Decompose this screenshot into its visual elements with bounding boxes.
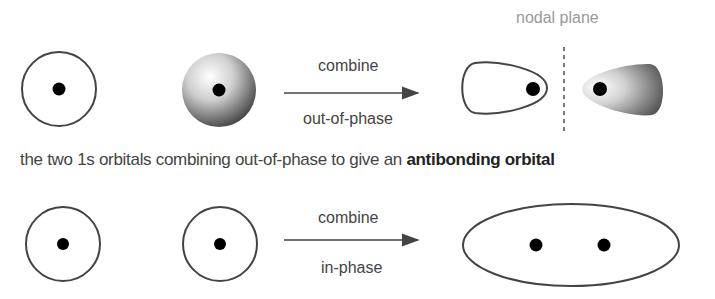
nucleus-icon bbox=[530, 239, 543, 252]
bottom-right-1s-orbital bbox=[183, 207, 257, 281]
top-arrow-sublabel: out-of-phase bbox=[303, 110, 393, 128]
bottom-arrow-label: combine bbox=[318, 209, 378, 227]
bottom-arrow-sublabel: in-phase bbox=[321, 259, 382, 277]
antibonding-right-lobe bbox=[582, 64, 663, 115]
nodal-plane-label: nodal plane bbox=[516, 9, 599, 27]
bottom-left-1s-orbital bbox=[26, 207, 100, 281]
nucleus-icon bbox=[57, 238, 69, 250]
top-left-1s-orbital bbox=[22, 52, 96, 126]
nucleus-icon bbox=[213, 84, 226, 97]
caption-text: the two 1s orbitals combining out-of-pha… bbox=[20, 150, 406, 169]
top-arrow-label: combine bbox=[318, 57, 378, 75]
bonding-orbital bbox=[463, 204, 679, 286]
nucleus-icon bbox=[526, 82, 540, 96]
antibonding-left-lobe bbox=[462, 62, 547, 113]
caption-bold-term: antibonding orbital bbox=[406, 150, 554, 169]
nucleus-icon bbox=[53, 83, 66, 96]
caption: the two 1s orbitals combining out-of-pha… bbox=[20, 150, 555, 170]
top-shaded-1s-orbital bbox=[182, 53, 256, 127]
nucleus-icon bbox=[598, 239, 611, 252]
nucleus-icon bbox=[593, 82, 607, 96]
nucleus-icon bbox=[214, 238, 226, 250]
